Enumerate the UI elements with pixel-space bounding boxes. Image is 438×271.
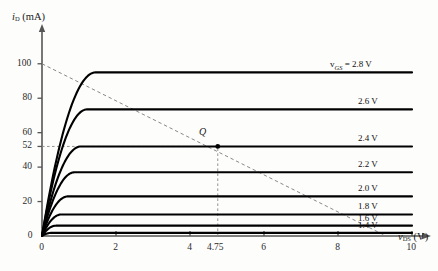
y-tick-label: 60 xyxy=(22,128,32,138)
y-tick-label: 40 xyxy=(22,162,32,172)
curve-label-vgs: 1.8 V xyxy=(358,202,378,211)
curve-label-vgs: 2.4 V xyxy=(358,134,378,143)
y-tick-label: 0 xyxy=(28,231,33,241)
x-axis-title: vDS (V) xyxy=(398,232,428,243)
y-tick-label: 100 xyxy=(17,59,31,69)
x-tick-label: 8 xyxy=(335,243,340,253)
curve-label-vgs: 2.2 V xyxy=(358,160,378,169)
q-point-label: Q xyxy=(199,127,206,137)
y-tick-label: 80 xyxy=(22,93,32,103)
curve-label-vgs: 1.4 V xyxy=(358,221,378,230)
y-tick-label: 20 xyxy=(22,197,32,207)
curve-label-vgs: 2.6 V xyxy=(358,97,378,106)
x-tick-label: 0 xyxy=(39,243,44,253)
x-tick-label: 2 xyxy=(113,243,118,253)
x-tick-label: 4 xyxy=(187,243,192,253)
curve-label-vgs: 2.0 V xyxy=(358,184,378,193)
x-tick-label: 10 xyxy=(407,243,417,253)
mosfet-output-characteristics-figure: iD (mA) vDS (V) Q 02040526080100 0244.75… xyxy=(0,0,438,271)
x-tick-label: 6 xyxy=(261,243,266,253)
y-axis-title: iD (mA) xyxy=(12,12,45,23)
curve-label-vgs: vGS = 2.8 V xyxy=(330,60,372,71)
x-tick-label: 4.75 xyxy=(207,243,224,253)
y-tick-label: 52 xyxy=(22,141,32,151)
